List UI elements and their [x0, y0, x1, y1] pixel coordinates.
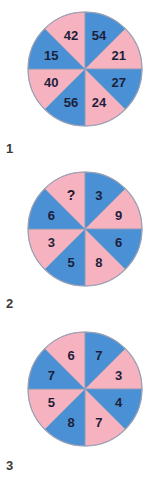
sector-value-label: 6 [115, 235, 122, 250]
puzzle-item: ?3968536 2 [0, 160, 166, 320]
pie-wheel: ?3968536 [27, 171, 143, 287]
sector-value-label: 54 [92, 28, 107, 43]
sector-value-label: 8 [67, 415, 74, 430]
pie-wheel-graphic: 67347857 [27, 331, 143, 447]
puzzle-number: 3 [6, 459, 13, 473]
sector-value-label: 7 [95, 415, 102, 430]
sector-value-label: 40 [44, 75, 58, 90]
sector-unknown-label: ? [67, 187, 76, 203]
sector-value-label: 7 [48, 368, 55, 383]
sector-value-label: 3 [48, 235, 55, 250]
sector-value-label: 56 [64, 95, 78, 110]
puzzle-sheet: 4254212724564015 1 ?3968536 2 67347857 3 [0, 0, 166, 483]
sector-value-label: 8 [95, 255, 102, 270]
sector-value-label: 7 [95, 348, 102, 363]
sector-value-label: 6 [67, 348, 74, 363]
sector-value-label: 5 [48, 395, 55, 410]
puzzle-number: 1 [6, 142, 13, 156]
sector-value-label: 21 [111, 48, 125, 63]
puzzle-item: 67347857 3 [0, 320, 166, 483]
puzzle-item: 4254212724564015 1 [0, 0, 166, 160]
sector-value-label: 3 [95, 188, 102, 203]
pie-wheel-graphic: 4254212724564015 [27, 11, 143, 127]
sector-value-label: 3 [115, 368, 122, 383]
sector-value-label: 4 [115, 395, 123, 410]
sector-value-label: 24 [92, 95, 107, 110]
sector-value-label: 6 [48, 208, 55, 223]
sector-value-label: 9 [115, 208, 122, 223]
pie-wheel: 67347857 [27, 331, 143, 447]
pie-wheel-graphic: ?3968536 [27, 171, 143, 287]
pie-wheel: 4254212724564015 [27, 11, 143, 127]
sector-value-label: 5 [67, 255, 74, 270]
sector-value-label: 15 [44, 48, 58, 63]
sector-value-label: 27 [111, 75, 125, 90]
sector-value-label: 42 [64, 28, 78, 43]
puzzle-number: 2 [6, 297, 13, 311]
